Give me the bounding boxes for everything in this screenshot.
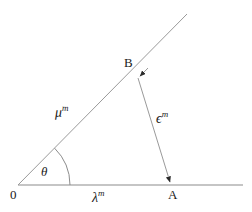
lambda-superscript: m	[98, 188, 105, 198]
segment-b-to-a	[138, 78, 170, 182]
point-b-label: B	[124, 56, 133, 69]
epsilon-superscript: m	[162, 109, 169, 119]
epsilon-superscript-m-label: ϵm	[156, 110, 168, 126]
origin-label: 0	[10, 188, 17, 201]
geometry-diagram-svg	[0, 0, 252, 212]
mu-superscript: m	[62, 103, 69, 113]
theta-arc	[55, 148, 70, 185]
theta-angle-label: θ	[41, 165, 47, 178]
inclined-ray	[18, 14, 187, 185]
lambda-superscript-m-label: λm	[92, 189, 105, 205]
figure-container: 0 B A μm ϵm λm θ	[0, 0, 252, 212]
mu-superscript-m-label: μm	[55, 104, 69, 120]
point-a-label: A	[168, 188, 177, 201]
arrow-to-b	[140, 68, 148, 76]
